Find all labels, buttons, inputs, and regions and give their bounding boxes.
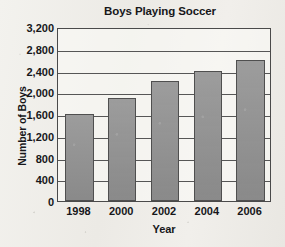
bar-chart-figure: Boys Playing Soccer Number of Boys 04008…	[0, 0, 285, 247]
x-tick-label-2000: 2000	[109, 205, 133, 217]
y-tick-label: 2,400	[0, 66, 54, 77]
x-tick-label-2004: 2004	[195, 205, 219, 217]
y-tick-label: 2,000	[0, 88, 54, 99]
chart-title: Boys Playing Soccer	[40, 5, 280, 17]
bar-2002	[151, 81, 179, 201]
x-tick-label-2006: 2006	[237, 205, 261, 217]
y-axis-title: Number of Boys	[16, 61, 28, 191]
y-tick-label: 2,800	[0, 44, 54, 55]
y-tick-label: 800	[0, 153, 54, 164]
bar-2004	[194, 71, 222, 202]
x-axis-title: Year	[57, 223, 271, 235]
x-tick-label-2002: 2002	[152, 205, 176, 217]
bar-1998	[65, 114, 93, 201]
y-tick-label: 1,200	[0, 131, 54, 142]
y-tick-label: 0	[0, 197, 54, 208]
plot-area	[57, 28, 271, 202]
bar-2006	[236, 60, 264, 201]
bar-2000	[108, 98, 136, 201]
x-tick-label-1998: 1998	[66, 205, 90, 217]
y-tick-label: 3,200	[0, 23, 54, 34]
y-tick-label: 400	[0, 175, 54, 186]
bars-group	[58, 29, 270, 201]
y-tick-label: 1,600	[0, 110, 54, 121]
